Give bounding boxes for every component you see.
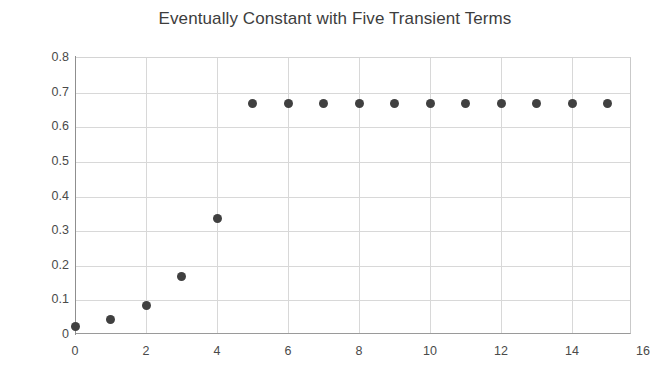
y-tick-label: 0.5 xyxy=(21,154,69,168)
x-tick-label: 0 xyxy=(55,344,95,358)
x-tick-label: 12 xyxy=(481,344,521,358)
data-point xyxy=(319,99,328,108)
data-point xyxy=(461,99,470,108)
data-point xyxy=(213,214,222,223)
x-tick-label: 14 xyxy=(552,344,592,358)
y-tick-label: 0.3 xyxy=(21,223,69,237)
x-tick-label: 6 xyxy=(268,344,308,358)
gridline-vertical xyxy=(146,58,147,333)
x-tick-label: 16 xyxy=(623,344,663,358)
y-axis-tick-labels: 00.10.20.30.40.50.60.70.8 xyxy=(14,0,69,383)
gridline-vertical xyxy=(217,58,218,333)
gridline-horizontal xyxy=(75,127,630,128)
chart-title: Eventually Constant with Five Transient … xyxy=(0,9,670,29)
data-point xyxy=(71,322,80,331)
x-tick-label: 10 xyxy=(410,344,450,358)
y-tick-label: 0.8 xyxy=(21,50,69,64)
data-point xyxy=(497,99,506,108)
data-point xyxy=(248,99,257,108)
data-point xyxy=(142,301,151,310)
data-point xyxy=(390,99,399,108)
data-point xyxy=(106,315,115,324)
data-point xyxy=(532,99,541,108)
y-tick-label: 0 xyxy=(21,327,69,341)
data-point xyxy=(355,99,364,108)
x-tick-label: 8 xyxy=(339,344,379,358)
y-tick-label: 0.7 xyxy=(21,85,69,99)
gridline-horizontal xyxy=(75,93,630,94)
gridline-horizontal xyxy=(75,197,630,198)
x-tick-label: 2 xyxy=(126,344,166,358)
y-tick-label: 0.2 xyxy=(21,258,69,272)
y-tick-label: 0.4 xyxy=(21,189,69,203)
data-point xyxy=(603,99,612,108)
data-point xyxy=(568,99,577,108)
x-tick-label: 4 xyxy=(197,344,237,358)
gridline-horizontal xyxy=(75,266,630,267)
gridline-horizontal xyxy=(75,162,630,163)
y-tick-label: 0.1 xyxy=(21,292,69,306)
gridline-horizontal xyxy=(75,300,630,301)
data-point xyxy=(177,272,186,281)
chart-container: Eventually Constant with Five Transient … xyxy=(0,0,670,383)
y-axis-line xyxy=(75,56,76,335)
plot-area xyxy=(75,57,631,334)
data-point xyxy=(426,99,435,108)
data-point xyxy=(284,99,293,108)
gridline-horizontal xyxy=(75,231,630,232)
y-tick-label: 0.6 xyxy=(21,119,69,133)
